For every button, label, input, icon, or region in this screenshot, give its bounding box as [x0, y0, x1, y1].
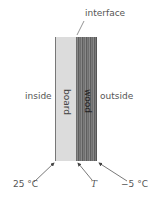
- leader-lines: [0, 0, 149, 199]
- interface-temp-arrow: [78, 163, 92, 180]
- interface-leader-line: [77, 21, 84, 35]
- outside-temp-arrow: [99, 163, 127, 181]
- inside-temp-arrow: [34, 163, 54, 182]
